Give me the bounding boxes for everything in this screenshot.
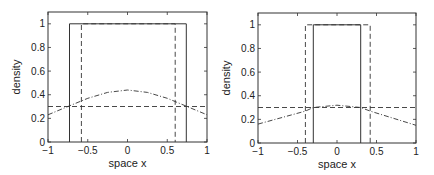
series-dashdot bbox=[48, 90, 207, 115]
x-tick-label: 0.5 bbox=[370, 146, 384, 157]
axes-box bbox=[48, 12, 207, 142]
chart-2: −1−0.500.5100.20.40.60.81space xdensity bbox=[220, 13, 419, 170]
y-tick-label: 0.6 bbox=[241, 67, 255, 78]
y-axis-label: density bbox=[10, 59, 22, 94]
y-tick-label: 0.8 bbox=[241, 43, 255, 54]
x-tick-label: 0.5 bbox=[160, 145, 174, 156]
x-tick-label: −0.5 bbox=[288, 146, 308, 157]
x-axis-label: space x bbox=[318, 158, 356, 170]
figure: −1−0.500.5100.20.40.60.81space xdensity−… bbox=[0, 0, 434, 175]
y-tick-label: 0 bbox=[39, 137, 45, 148]
y-tick-label: 0.4 bbox=[241, 90, 255, 101]
y-tick-label: 0.2 bbox=[241, 114, 255, 125]
y-tick-label: 1 bbox=[249, 19, 255, 30]
y-tick-label: 1 bbox=[39, 18, 45, 29]
y-axis-label: density bbox=[220, 60, 232, 95]
y-tick-label: 0.6 bbox=[31, 66, 45, 77]
x-tick-label: 1 bbox=[204, 145, 210, 156]
series-solid bbox=[70, 24, 187, 142]
x-axis-label: space x bbox=[109, 157, 147, 169]
y-tick-label: 0.2 bbox=[31, 113, 45, 124]
x-tick-label: −0.5 bbox=[78, 145, 98, 156]
series-dashed bbox=[81, 24, 175, 142]
y-tick-label: 0.4 bbox=[31, 89, 45, 100]
series-dashdot bbox=[258, 105, 416, 125]
axes-box bbox=[258, 13, 416, 143]
x-tick-label: 0 bbox=[334, 146, 340, 157]
chart-1: −1−0.500.5100.20.40.60.81space xdensity bbox=[10, 12, 210, 169]
series-solid bbox=[313, 25, 360, 143]
x-tick-label: 0 bbox=[125, 145, 131, 156]
y-tick-label: 0 bbox=[249, 138, 255, 149]
x-tick-label: 1 bbox=[413, 146, 419, 157]
y-tick-label: 0.8 bbox=[31, 42, 45, 53]
